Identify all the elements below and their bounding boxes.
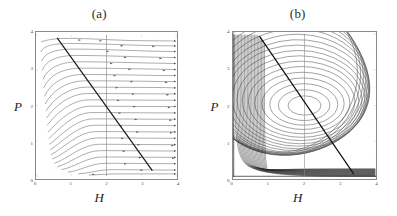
panel-b-title: (b) [199,6,397,22]
x-tick-1: 1 [267,181,270,186]
x-tick-3: 3 [141,181,144,186]
panel-b-y-tick-labels: 0 1 2 3 4 [217,31,231,180]
panel-b-plot-area [232,31,377,180]
y-tick-2: 2 [31,103,34,108]
panel-a-plot-area [35,31,178,180]
y-tick-4: 4 [31,29,34,34]
y-tick-0: 0 [31,178,34,183]
x-tick-2: 2 [105,181,108,186]
y-tick-2: 2 [227,103,230,108]
x-tick-0: 0 [34,181,37,186]
x-tick-3: 3 [339,181,342,186]
panel-a-x-tick-labels: 0 1 2 3 4 [35,181,178,193]
panel-b: (b) P H [199,0,397,216]
panel-a: (a) P H [0,0,199,216]
y-tick-1: 1 [31,140,34,145]
panel-a-streamlines [41,38,176,175]
panel-b-contourplot [233,32,376,179]
y-tick-3: 3 [31,66,34,71]
x-tick-2: 2 [303,181,306,186]
y-tick-3: 3 [227,66,230,71]
panel-a-y-tick-labels: 0 1 2 3 4 [20,31,34,180]
x-tick-4: 4 [177,181,180,186]
y-tick-4: 4 [227,29,230,34]
x-tick-1: 1 [70,181,73,186]
y-tick-1: 1 [227,140,230,145]
panel-a-title: (a) [0,6,199,22]
x-tick-4: 4 [375,181,378,186]
panel-a-streamplot [36,32,177,179]
y-tick-0: 0 [227,178,230,183]
figure-two-panel-phase-portraits: (a) P H [0,0,397,216]
panel-b-x-tick-labels: 0 1 2 3 4 [232,181,377,193]
panel-a-flow-arrowheads [78,39,175,175]
x-tick-0: 0 [230,181,233,186]
